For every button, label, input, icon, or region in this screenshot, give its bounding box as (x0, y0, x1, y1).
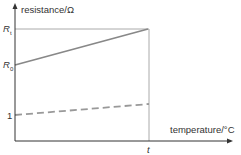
rt-tick-label: Rt (3, 24, 12, 36)
dashed-series-line (15, 104, 149, 115)
x-axis-label: temperature/°C (170, 125, 235, 135)
x-axis-arrow-icon (227, 139, 233, 144)
one-tick-label: 1 (7, 111, 12, 121)
r0-tick-label: R0 (3, 60, 13, 72)
y-axis-label: resistance/Ω (21, 5, 74, 15)
t-tick-label: t (147, 145, 150, 155)
solid-series-line (15, 29, 148, 65)
y-axis-arrow-icon (13, 3, 18, 9)
